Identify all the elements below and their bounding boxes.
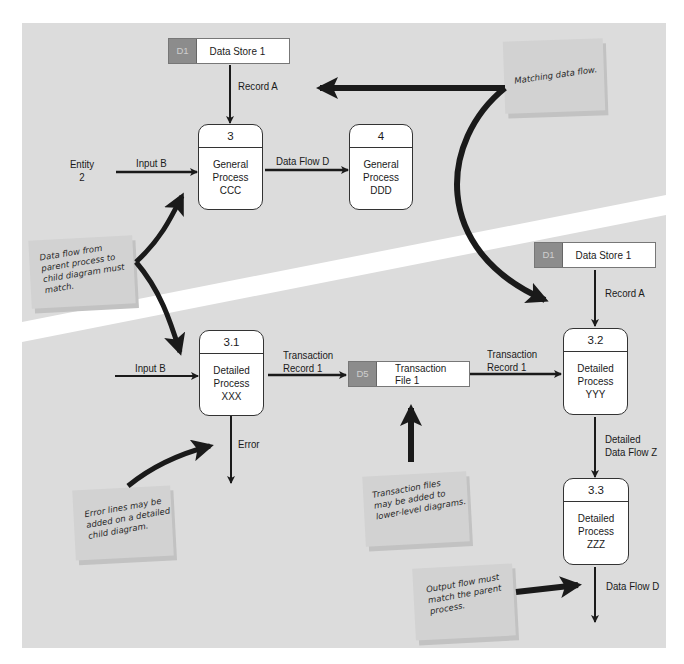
callout-arrow-output — [516, 585, 578, 592]
process-3-1: 3.1 Detailed Process XXX — [199, 330, 264, 416]
callout-arrow-matching-down — [457, 88, 545, 300]
callout-arrow-error — [128, 446, 210, 486]
store-name: Data Store 1 — [563, 243, 631, 267]
label-detailed-data-flow-z: Detailed Data Flow Z — [605, 433, 657, 459]
label-transaction-record-1a: Transaction Record 1 — [283, 349, 333, 375]
label-input-b-child: Input B — [135, 362, 166, 375]
store-name: Transaction File 1 — [377, 362, 446, 386]
process-3: 3 General Process CCC — [198, 124, 263, 210]
store-name: Data Store 1 — [197, 39, 265, 63]
data-store-d1-child: D1 Data Store 1 — [534, 242, 656, 268]
callout-arrow-parent — [136, 196, 182, 262]
entity-2: Entity 2 — [64, 158, 99, 184]
store-id: D1 — [535, 243, 563, 267]
data-store-d1-parent: D1 Data Store 1 — [168, 38, 290, 64]
label-input-b-parent: Input B — [136, 157, 167, 170]
label-transaction-record-1b: Transaction Record 1 — [487, 348, 537, 374]
label-data-flow-d-parent: Data Flow D — [276, 155, 329, 168]
label-record-a-parent: Record A — [238, 80, 278, 93]
callout-arrow-child — [136, 262, 180, 352]
label-record-a-child: Record A — [605, 287, 645, 300]
dfd-canvas: Matching data flow. Data flow from paren… — [0, 0, 684, 664]
label-data-flow-d-child: Data Flow D — [606, 580, 659, 593]
store-id: D1 — [169, 39, 197, 63]
process-3-3: 3.3 Detailed Process ZZZ — [563, 478, 629, 565]
data-store-d5: D5 Transaction File 1 — [348, 361, 470, 387]
store-id: D5 — [349, 362, 377, 386]
process-3-2: 3.2 Detailed Process YYY — [563, 328, 628, 415]
label-error: Error — [238, 438, 260, 451]
process-4: 4 General Process DDD — [349, 124, 413, 210]
